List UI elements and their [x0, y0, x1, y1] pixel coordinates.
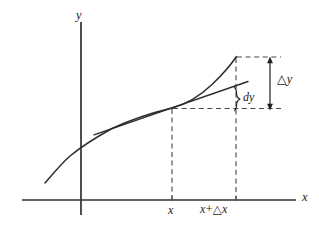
dy-label: dy	[243, 91, 254, 103]
x-plus-delta-x-increment-variable: x	[222, 202, 228, 216]
dy-brace-path	[235, 88, 240, 111]
x-axis-label: x	[302, 191, 308, 204]
axes-group	[22, 22, 296, 215]
y-axis-label: y	[76, 9, 82, 22]
delta-y-delta-icon: △	[277, 72, 287, 86]
x-plus-delta-x-tick-label: x+△x	[200, 203, 228, 216]
delta-y-arrow-down	[267, 104, 273, 111]
x-plus-delta-x-delta-icon: △	[213, 203, 222, 216]
figure-canvas	[0, 0, 319, 237]
delta-y-variable: y	[287, 72, 293, 86]
differential-figure: y x x x+△x △y dy	[0, 0, 319, 237]
x-plus-delta-x-operator: +	[206, 202, 213, 216]
x-tick-label: x	[168, 204, 173, 216]
delta-y-label: △y	[277, 73, 293, 86]
delta-y-measure	[267, 57, 273, 111]
dy-measure-brace	[235, 88, 240, 111]
function-curve	[45, 57, 237, 184]
guide-lines-group	[172, 57, 281, 199]
